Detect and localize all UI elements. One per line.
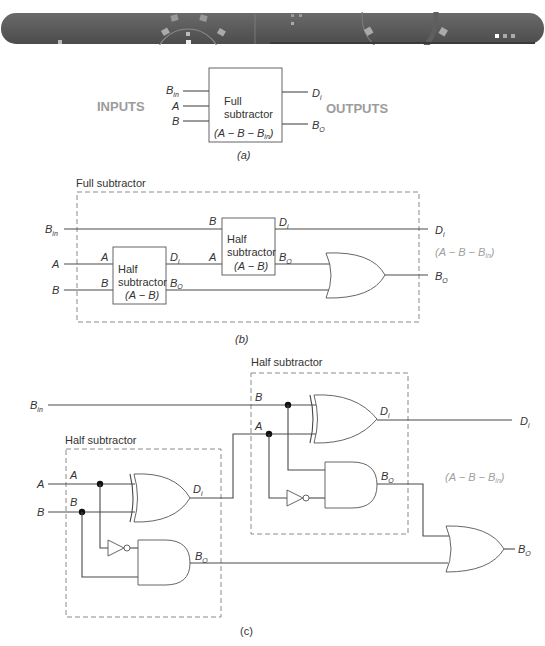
c-half1-di: Di — [193, 483, 203, 497]
half-subtractor-1-label: Half subtractor — [65, 434, 137, 446]
b-input-a: A — [51, 258, 59, 270]
block-line1: Full — [224, 95, 242, 107]
xor-gate-2-icon — [314, 395, 377, 443]
half2-out-bo: BO — [279, 251, 292, 265]
full-subtractor-group-label: Full subtractor — [76, 177, 146, 189]
figure-b-two-half-subtractors: Full subtractor Half subtractor (A − B) … — [45, 177, 495, 345]
not-gate-1-icon — [108, 540, 124, 556]
c-input-b: B — [37, 506, 44, 518]
inputs-label: INPUTS — [97, 99, 145, 114]
c-half2-b: B — [255, 391, 262, 403]
not-gate-2-icon — [287, 490, 303, 506]
figure-c-caption: (c) — [240, 625, 253, 637]
and-gate-1-icon — [138, 540, 190, 585]
c-half1-b: B — [70, 496, 77, 508]
b-output-di: Di — [435, 224, 445, 238]
inverter-bubble-icon — [303, 495, 309, 501]
b-input-b: B — [52, 284, 59, 296]
half-subtractor-2-label: Half subtractor — [251, 356, 323, 368]
b-equation: (A − B − Bin) — [435, 246, 495, 259]
xor-gate-2-input-arc — [310, 395, 313, 443]
half1-line2: subtractor — [118, 276, 167, 288]
b-output-bo: BO — [435, 270, 448, 284]
output-di-label: Di — [312, 87, 322, 101]
subtractor-diagrams: INPUTS OUTPUTS Bin A B Di BO Full subtra… — [0, 0, 545, 646]
c-half2-bo: BO — [381, 470, 394, 484]
c-output-bo: BO — [518, 543, 531, 557]
half1-out-di: Di — [170, 251, 180, 265]
or-gate-final-icon — [446, 526, 504, 572]
figure-b-caption: (b) — [235, 333, 249, 345]
c-output-di: Di — [520, 415, 530, 429]
c-equation: (A − B − Bin) — [445, 471, 505, 484]
half2-line3: (A − B) — [234, 260, 268, 272]
inverter-bubble-icon — [124, 545, 130, 551]
figure-c-gate-level: Half subtractor Half subtractor — [30, 356, 531, 637]
xor-gate-1-icon — [134, 474, 190, 522]
output-bo-label: BO — [312, 119, 325, 133]
half1-in-a: A — [100, 251, 108, 263]
xor-gate-1-input-arc — [130, 474, 133, 522]
half1-in-b: B — [101, 277, 108, 289]
c-half1-a: A — [69, 469, 77, 481]
figure-a-caption: (a) — [237, 149, 251, 161]
c-half2-di: Di — [380, 405, 390, 419]
c-half1-bo: BO — [195, 550, 208, 564]
input-bin-label: Bin — [166, 84, 179, 98]
half2-in-a: A — [208, 251, 216, 263]
or-gate-icon — [326, 253, 385, 298]
outputs-label: OUTPUTS — [326, 101, 388, 116]
half2-in-b: B — [209, 215, 216, 227]
block-line2: subtractor — [224, 108, 273, 120]
half2-line2: subtractor — [227, 246, 276, 258]
b-input-bin: Bin — [45, 223, 58, 237]
half2-line1: Half — [227, 233, 248, 245]
input-b-label: B — [172, 115, 179, 127]
c-input-bin: Bin — [30, 399, 43, 413]
half2-out-di: Di — [279, 216, 289, 230]
c-half2-a: A — [254, 420, 262, 432]
and-gate-2-icon — [325, 462, 377, 508]
input-a-label: A — [171, 100, 179, 112]
half1-line3: (A − B) — [125, 289, 159, 301]
figure-a-full-subtractor-block: INPUTS OUTPUTS Bin A B Di BO Full subtra… — [97, 68, 388, 161]
c-input-a: A — [36, 478, 44, 490]
half1-line1: Half — [118, 263, 139, 275]
half1-out-bo: BO — [170, 277, 183, 290]
